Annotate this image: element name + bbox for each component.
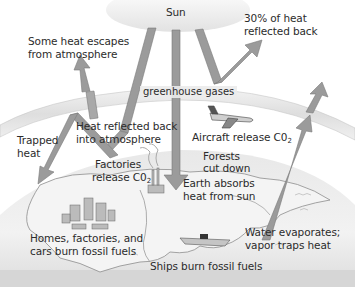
- reflected-back-label-line2: reflected back: [244, 25, 318, 38]
- heat-escape-right-arrow: [306, 82, 328, 113]
- heat-escapes-label-line1: Some heat escapes: [28, 35, 129, 48]
- heat-reflected-label-line2: into atmosphere: [76, 133, 161, 146]
- sun-label: Sun: [166, 6, 186, 19]
- reflected-back-arrow: [214, 40, 262, 84]
- heat-escapes-label-line2: from atmosphere: [28, 48, 117, 61]
- trapped-heat-label-line1: Trapped: [17, 134, 58, 147]
- earth-absorbs-label-line2: heat from sun: [183, 190, 255, 203]
- aircraft-label: Aircraft release C02: [192, 131, 292, 148]
- factories-label-line2: release C02: [92, 171, 151, 188]
- factories-label-line1: Factories: [95, 158, 141, 171]
- sun-ray-right-arrow: [195, 29, 222, 84]
- greenhouse-effect-diagram: Sun Some heat escapes from atmosphere 30…: [0, 0, 355, 287]
- ships-label: Ships burn fossil fuels: [150, 260, 262, 273]
- greenhouse-gases-label: greenhouse gases: [140, 86, 237, 98]
- earth-absorbs-label-line1: Earth absorbs: [183, 177, 255, 190]
- trapped-heat-label-line2: heat: [17, 147, 40, 160]
- forests-label-line2: cut down: [203, 162, 250, 175]
- water-vapor-label-line2: vapor traps heat: [245, 239, 331, 252]
- homes-label-line2: cars burn fossil fuels: [30, 245, 136, 258]
- heat-reflected-label-line1: Heat reflected back: [76, 120, 177, 133]
- water-vapor-label-line1: Water evaporates;: [245, 226, 340, 239]
- reflected-back-label-line1: 30% of heat: [244, 12, 307, 25]
- airplane-icon: [208, 106, 253, 128]
- homes-label-line1: Homes, factories, and: [30, 232, 143, 245]
